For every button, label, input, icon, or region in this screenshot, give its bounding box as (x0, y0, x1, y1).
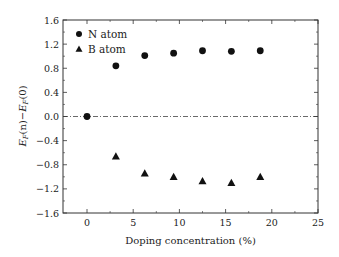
y-tick-label: 0.0 (44, 111, 59, 122)
y-tick-label: −0.8 (36, 159, 59, 170)
legend: N atomB atom (76, 28, 128, 55)
y-tick-label: −1.6 (36, 208, 59, 219)
series-n-atom (84, 47, 264, 120)
triangle-marker (199, 177, 207, 184)
legend-item: B atom (76, 43, 126, 55)
y-tick-label: 1.2 (44, 39, 59, 50)
triangle-marker (227, 179, 235, 186)
triangle-legend-icon (76, 46, 83, 52)
y-axis-title: EF(n)−EF(0) (17, 85, 30, 147)
triangle-marker (141, 169, 149, 176)
circle-marker (141, 52, 148, 59)
triangle-marker (256, 173, 264, 180)
x-axis-title: Doping concentration (%) (125, 235, 256, 246)
circle-legend-icon (76, 31, 82, 37)
y-tick-label: 0.4 (44, 87, 59, 98)
y-tick-label: 0.8 (44, 63, 59, 74)
x-tick-label: 15 (220, 217, 232, 228)
x-tick-label: 5 (130, 217, 136, 228)
chart: 0510152025 1.61.20.80.40.0−0.4−0.8−1.2−1… (0, 0, 339, 257)
circle-marker (112, 62, 119, 69)
x-tick-label: 20 (266, 217, 278, 228)
x-tick-label: 0 (84, 217, 90, 228)
y-tick-label: −1.2 (36, 183, 59, 194)
x-tick-label: 10 (173, 217, 185, 228)
circle-marker (170, 50, 177, 57)
x-tick-label: 25 (312, 217, 324, 228)
y-tick-label: 1.6 (44, 15, 59, 26)
triangle-marker (170, 173, 178, 180)
legend-label: N atom (88, 28, 127, 40)
circle-marker (84, 113, 91, 120)
circle-marker (228, 48, 235, 55)
circle-marker (199, 47, 206, 54)
legend-label: B atom (88, 43, 126, 55)
legend-item: N atom (76, 28, 127, 40)
y-tick-label: −0.4 (36, 135, 59, 146)
circle-marker (257, 47, 264, 54)
triangle-marker (112, 152, 120, 159)
series-b-atom (112, 152, 264, 186)
